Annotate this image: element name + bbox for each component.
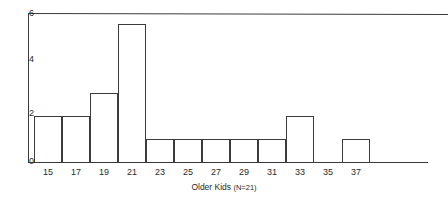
x-axis-line — [28, 162, 428, 163]
caption-note: (N=21) — [233, 183, 256, 192]
x-tick-label-19: 19 — [90, 167, 118, 177]
histogram-bar-17 — [62, 116, 90, 162]
histogram-bar-23 — [146, 139, 174, 162]
histogram-bar-25 — [174, 139, 202, 162]
caption-label: Older Kids — [191, 182, 231, 192]
histogram-bar-33 — [286, 116, 314, 162]
x-tick-label-31: 31 — [258, 167, 286, 177]
x-tick-label-17: 17 — [62, 167, 90, 177]
plot-area — [28, 13, 428, 162]
x-tick-label-25: 25 — [174, 167, 202, 177]
x-tick-label-35: 35 — [314, 167, 342, 177]
x-axis-caption: Older Kids (N=21) — [0, 182, 448, 193]
histogram-bar-29 — [230, 139, 258, 162]
x-tick-label-33: 33 — [286, 167, 314, 177]
histogram-bar-27 — [202, 139, 230, 162]
x-tick-label-29: 29 — [230, 167, 258, 177]
x-tick-label-21: 21 — [118, 167, 146, 177]
histogram-bar-31 — [258, 139, 286, 162]
x-tick-label-27: 27 — [202, 167, 230, 177]
histogram-bar-15 — [34, 116, 62, 162]
x-tick-label-15: 15 — [34, 167, 62, 177]
histogram-bar-21 — [118, 24, 146, 162]
histogram-figure: 6 4 2 0 15 17 19 21 23 25 27 29 31 33 35… — [0, 0, 448, 202]
x-tick-label-37: 37 — [342, 167, 370, 177]
histogram-bar-37 — [342, 139, 370, 162]
histogram-bar-19 — [90, 93, 118, 162]
x-tick-label-23: 23 — [146, 167, 174, 177]
